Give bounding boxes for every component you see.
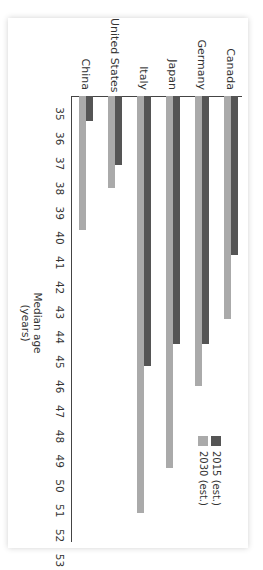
legend: 2015 (est.) 2030 (est.): [196, 436, 222, 506]
x-axis-title: Median age (years): [20, 278, 44, 368]
bar-2030: [108, 96, 115, 188]
x-tick-label: 49: [54, 451, 66, 471]
bar-2030: [166, 96, 173, 468]
category-label: Canada: [224, 18, 237, 90]
x-tick-label: 43: [54, 302, 66, 322]
category-label: United States: [108, 18, 121, 90]
bar-2015: [173, 96, 180, 344]
x-tick-label: 37: [54, 154, 66, 174]
bar-2030: [224, 96, 231, 319]
legend-swatch-2015: [212, 436, 222, 446]
x-tick-label: 45: [54, 352, 66, 372]
x-tick-label: 42: [54, 278, 66, 298]
value-axis-line: [71, 96, 72, 542]
x-axis-title-line2: (years): [20, 278, 32, 368]
x-tick-label: 39: [54, 203, 66, 223]
legend-label-2030: 2030 (est.): [198, 451, 209, 506]
bar-2015: [202, 96, 209, 344]
category-label: Germany: [195, 18, 208, 90]
x-tick-label: 41: [54, 253, 66, 273]
category-label: Japan: [166, 18, 179, 90]
x-tick-label: 48: [54, 426, 66, 446]
category-label: Italy: [137, 18, 150, 90]
category-axis-line: [72, 96, 242, 97]
x-tick-label: 38: [54, 178, 66, 198]
x-tick-label: 40: [54, 228, 66, 248]
x-axis-title-line1: Median age: [32, 278, 44, 368]
x-tick-label: 52: [54, 526, 66, 546]
median-age-bar-chart: CanadaGermanyJapanItalyUnited StatesChin…: [8, 18, 248, 548]
category-label: China: [79, 18, 92, 90]
legend-swatch-2030: [199, 436, 209, 446]
bar-2015: [115, 96, 122, 165]
legend-item-2015: 2015 (est.): [211, 436, 222, 506]
bar-2030: [195, 96, 202, 386]
x-tick-label: 50: [54, 476, 66, 496]
chart-frame: CanadaGermanyJapanItalyUnited StatesChin…: [8, 18, 248, 548]
legend-label-2015: 2015 (est.): [211, 451, 222, 506]
x-tick-label: 44: [54, 327, 66, 347]
x-tick-label: 51: [54, 501, 66, 521]
x-tick-label: 46: [54, 377, 66, 397]
bar-2015: [86, 96, 93, 121]
x-tick-label: 47: [54, 402, 66, 422]
x-tick-label: 36: [54, 129, 66, 149]
bar-2030: [79, 96, 86, 230]
x-tick-label: 35: [54, 104, 66, 124]
bar-2030: [137, 96, 144, 513]
bar-2015: [231, 96, 238, 255]
bar-2015: [144, 96, 151, 366]
legend-item-2030: 2030 (est.): [198, 436, 209, 506]
x-tick-label: 53: [54, 550, 66, 570]
